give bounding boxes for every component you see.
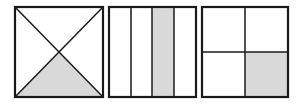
fraction-diagram	[0, 0, 301, 106]
shaded-bottom-triangle	[15, 52, 103, 97]
shaded-quadrant	[245, 52, 288, 97]
square-quadrants	[202, 7, 288, 97]
square-diagonals	[15, 7, 103, 97]
shaded-strip	[152, 7, 174, 97]
square-vertical-strips	[109, 7, 196, 97]
